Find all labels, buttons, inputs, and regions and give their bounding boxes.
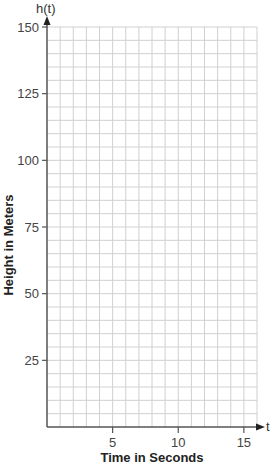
x-tick-label: 15 <box>237 435 251 450</box>
y-tick-label: 25 <box>25 353 39 368</box>
y-axis-arrow-icon <box>44 16 51 25</box>
y-tick-label: 75 <box>25 220 39 235</box>
x-axis-title: Time in Seconds <box>100 450 203 465</box>
x-tick-label: 10 <box>171 435 185 450</box>
y-axis-title: Height in Meters <box>1 194 16 295</box>
blank-coordinate-grid: 51015255075100125150 h(t) t Time in Seco… <box>0 0 274 469</box>
y-tick-label: 50 <box>25 286 39 301</box>
x-axis-name: t <box>266 419 270 434</box>
axes <box>44 16 266 431</box>
grid-lines <box>47 27 257 427</box>
ticks: 51015255075100125150 <box>17 20 251 451</box>
y-tick-label: 100 <box>17 153 39 168</box>
x-axis-arrow-icon <box>256 424 265 431</box>
y-axis-name: h(t) <box>36 1 56 16</box>
y-tick-label: 125 <box>17 86 39 101</box>
x-tick-label: 5 <box>109 435 116 450</box>
y-tick-label: 150 <box>17 20 39 35</box>
